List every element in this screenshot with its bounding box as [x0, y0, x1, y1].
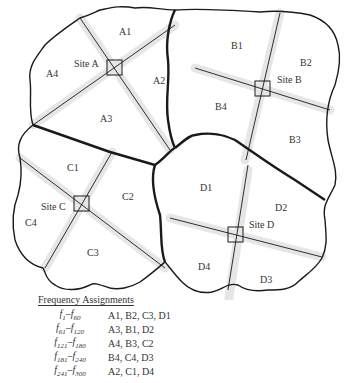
cell-a1-label: A1 [119, 26, 131, 37]
assigned-cells: B4, C4, D3 [104, 350, 171, 364]
cell-site-diagram: Site A Site B Site C Site D A1 A2 A3 A4 … [0, 0, 348, 300]
assigned-cells: A4, B3, C2 [104, 336, 171, 350]
cell-d3-label: D3 [260, 274, 272, 285]
cell-b3-label: B3 [289, 134, 301, 145]
frequency-assignments-legend: Frequency Assignments f1–f60 A1, B2, C3,… [36, 294, 236, 378]
legend-row: f121–f180 A4, B3, C2 [36, 336, 171, 350]
site-d-label: Site D [249, 219, 274, 230]
cell-a2-label: A2 [153, 75, 165, 86]
cell-b2-label: B2 [300, 57, 312, 68]
cell-b4-label: B4 [215, 101, 227, 112]
cell-a3-label: A3 [100, 113, 112, 124]
cell-d4-label: D4 [198, 261, 210, 272]
site-c-label: Site C [41, 201, 66, 212]
cell-d2-label: D2 [275, 202, 287, 213]
legend-row: f61–f120 A3, B1, D2 [36, 322, 171, 336]
site-b-label: Site B [277, 74, 302, 85]
frequency-range: f121–f180 [36, 336, 104, 350]
frequency-range: f241–f300 [36, 364, 104, 378]
cell-c1-label: C1 [67, 162, 79, 173]
cell-c4-label: C4 [25, 217, 37, 228]
frequency-range: f181–f240 [36, 350, 104, 364]
cell-c2-label: C2 [122, 191, 134, 202]
assigned-cells: A2, C1, D4 [104, 364, 171, 378]
cell-b1-label: B1 [231, 40, 243, 51]
legend-row: f1–f60 A1, B2, C3, D1 [36, 308, 171, 322]
cell-d1-label: D1 [200, 182, 212, 193]
assigned-cells: A3, B1, D2 [104, 322, 171, 336]
assigned-cells: A1, B2, C3, D1 [104, 308, 171, 322]
frequency-range: f1–f60 [36, 308, 104, 322]
legend-row: f181–f240 B4, C4, D3 [36, 350, 171, 364]
legend-title: Frequency Assignments [36, 294, 134, 305]
site-a-label: Site A [74, 58, 100, 69]
sector-shading [20, 13, 330, 300]
cell-c3-label: C3 [87, 247, 99, 258]
frequency-range: f61–f120 [36, 322, 104, 336]
cell-a4-label: A4 [46, 68, 58, 79]
legend-row: f241–f300 A2, C1, D4 [36, 364, 171, 378]
legend-table: f1–f60 A1, B2, C3, D1 f61–f120 A3, B1, D… [36, 308, 171, 378]
